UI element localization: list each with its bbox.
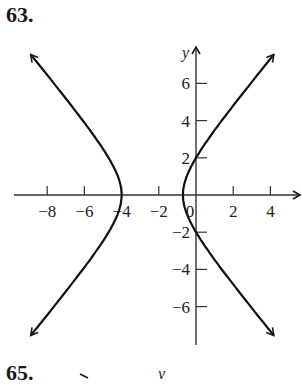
- svg-text:−2: −2: [172, 223, 190, 242]
- svg-text:−6: −6: [172, 298, 190, 317]
- problem-number-65: 65.: [6, 360, 34, 384]
- svg-text:2: 2: [182, 149, 191, 168]
- svg-text:6: 6: [182, 74, 191, 93]
- svg-text:−6: −6: [75, 202, 93, 221]
- svg-text:−2: −2: [150, 202, 168, 221]
- svg-text:−4: −4: [172, 260, 191, 279]
- y-axis-label: y: [180, 44, 190, 62]
- next-graph-y-label: y: [156, 365, 166, 379]
- svg-text:−8: −8: [38, 202, 56, 221]
- next-graph-arrow-stub: [80, 374, 88, 378]
- svg-text:2: 2: [229, 202, 238, 221]
- svg-text:4: 4: [182, 112, 191, 131]
- svg-text:4: 4: [266, 202, 275, 221]
